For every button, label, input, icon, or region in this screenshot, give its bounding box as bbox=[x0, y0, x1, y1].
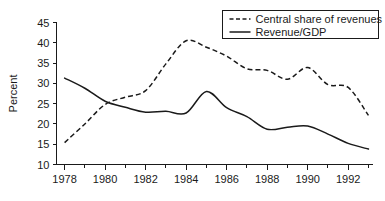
y-axis-tick-label: 30 bbox=[37, 77, 49, 89]
series-line-central-share-of-revenues bbox=[65, 40, 369, 142]
x-axis-tick-label: 1988 bbox=[255, 173, 279, 185]
y-axis-tick-label: 25 bbox=[37, 98, 49, 110]
chart-figure: 1015202530354045Percent 1978198019821984… bbox=[0, 0, 385, 201]
x-axis-tick-label: 1982 bbox=[133, 173, 157, 185]
x-axis-tick-label: 1978 bbox=[52, 173, 76, 185]
x-axis-tick-label: 1986 bbox=[214, 173, 238, 185]
legend-label: Revenue/GDP bbox=[256, 26, 327, 38]
y-axis-title: Percent bbox=[7, 75, 19, 113]
x-axis-tick-label: 1992 bbox=[336, 173, 360, 185]
y-axis-tick-label: 20 bbox=[37, 118, 49, 130]
chart-legend: Central share of revenuesRevenue/GDP bbox=[223, 11, 383, 39]
legend-label: Central share of revenues bbox=[256, 13, 383, 25]
y-axis: 1015202530354045Percent bbox=[7, 17, 57, 171]
x-axis-tick-label: 1990 bbox=[295, 173, 319, 185]
y-axis-tick-label: 15 bbox=[37, 138, 49, 150]
x-axis-tick-label: 1984 bbox=[174, 173, 198, 185]
y-axis-tick-label: 35 bbox=[37, 57, 49, 69]
series-line-revenue-gdp bbox=[65, 78, 369, 149]
x-axis: 19781980198219841986198819901992 bbox=[52, 165, 372, 185]
chart-series-group bbox=[65, 40, 369, 149]
y-axis-tick-label: 40 bbox=[37, 37, 49, 49]
x-axis-tick-label: 1980 bbox=[93, 173, 117, 185]
line-chart-canvas: 1015202530354045Percent 1978198019821984… bbox=[0, 0, 385, 201]
y-axis-tick-label: 45 bbox=[37, 17, 49, 29]
y-axis-tick-label: 10 bbox=[37, 159, 49, 171]
